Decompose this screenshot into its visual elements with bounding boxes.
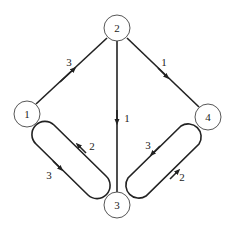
graph-canvas: 1 2 3 4 3 1 1 3 2 3 2: [0, 0, 234, 226]
weight-2-3: 1: [124, 112, 130, 124]
weight-4-3: 3: [145, 139, 151, 151]
node-1-label: 1: [24, 108, 30, 120]
node-2-label: 2: [114, 22, 120, 34]
weight-2-4: 1: [161, 56, 167, 68]
weight-3-1: 2: [89, 140, 95, 152]
weight-1-2: 3: [66, 56, 72, 68]
loop-3-4: [126, 124, 201, 198]
weight-1-3: 3: [46, 169, 52, 181]
node-3-label: 3: [114, 199, 120, 211]
node-4-label: 4: [205, 111, 211, 123]
loop-1-3: [32, 121, 110, 198]
weight-3-4: 2: [179, 171, 185, 183]
graph-diagram: 1 2 3 4 3 1 1 3 2 3 2: [0, 0, 234, 226]
